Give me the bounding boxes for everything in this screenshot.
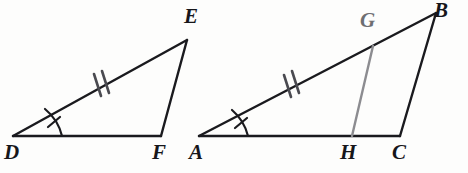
tick-marks-ab xyxy=(284,71,299,97)
geometry-figure: D E F A B C G H xyxy=(0,0,468,173)
vertex-label-b: B xyxy=(434,0,448,21)
vertex-label-e: E xyxy=(184,6,198,27)
segment-gh xyxy=(352,46,373,136)
side-DE xyxy=(13,40,187,136)
vertex-label-d: D xyxy=(4,142,19,163)
triangle-abc xyxy=(199,13,436,136)
side-EF xyxy=(161,40,187,136)
tick-marks-de xyxy=(94,71,109,96)
triangle-def xyxy=(13,40,187,136)
vertex-label-h: H xyxy=(340,142,356,163)
vertex-label-g: G xyxy=(360,10,375,31)
vertex-label-c: C xyxy=(392,142,406,163)
side-AB xyxy=(199,13,436,136)
vertex-label-f: F xyxy=(152,142,166,163)
vertex-label-a: A xyxy=(189,142,203,163)
side-BC xyxy=(400,13,436,136)
